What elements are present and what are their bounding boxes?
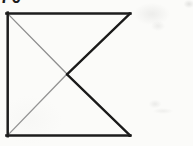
corner-bottom-left-ink	[6, 134, 9, 137]
corner-bottom-right-ink	[128, 134, 131, 137]
corner-top-left-ink	[6, 12, 9, 15]
bowtie-rectangle-figure	[0, 0, 193, 146]
diagonal-center-to-bottom-right	[67, 74, 130, 135]
diagonal-center-to-bottom-left	[8, 74, 67, 135]
diagonal-top-right-to-center	[67, 14, 130, 75]
scanned-figure-page: 70	[0, 0, 193, 146]
corner-top-right-ink	[128, 12, 131, 15]
diagonal-top-left-to-center	[8, 14, 67, 74]
